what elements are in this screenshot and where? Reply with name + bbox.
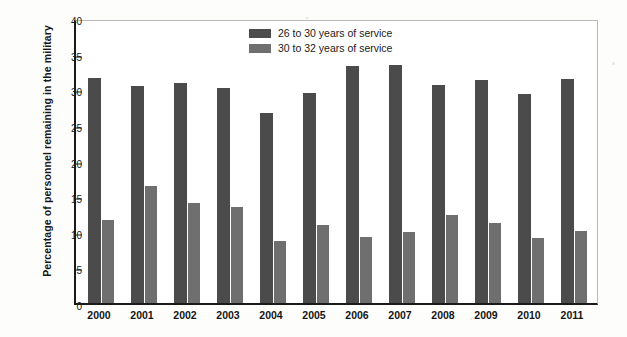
- y-tick-label: 40: [46, 16, 82, 27]
- bar-group: [174, 21, 200, 303]
- scan-speck: [305, 17, 309, 19]
- bar-2002-series-2: [188, 203, 200, 303]
- x-tick-label-2003: 2003: [204, 309, 252, 321]
- legend-item-2: 30 to 32 years of service: [249, 41, 392, 55]
- bar-group: [131, 21, 157, 303]
- bar-2004-series-1: [260, 113, 273, 303]
- y-tick-mark: [76, 92, 82, 93]
- bar-group: [475, 21, 501, 303]
- bar-2006-series-1: [346, 66, 359, 303]
- legend-item-1: 26 to 30 years of service: [249, 26, 392, 40]
- bar-2010-series-2: [532, 238, 544, 303]
- y-tick-mark: [76, 163, 82, 164]
- y-tick-mark: [76, 56, 82, 57]
- bar-2001-series-2: [145, 186, 157, 303]
- x-tick-label-2007: 2007: [376, 309, 424, 321]
- bar-2009-series-2: [489, 223, 501, 304]
- y-tick-mark: [76, 234, 82, 235]
- bar-2010-series-1: [518, 94, 531, 303]
- bar-2003-series-1: [217, 88, 230, 303]
- x-tick-label-2006: 2006: [333, 309, 381, 321]
- bar-2002-series-1: [174, 83, 187, 303]
- bar-group: [518, 21, 544, 303]
- chart-legend: 26 to 30 years of service30 to 32 years …: [249, 26, 392, 56]
- plot-area: 4035302520151050: [74, 20, 598, 305]
- bar-group: [432, 21, 458, 303]
- bar-2009-series-1: [475, 80, 488, 303]
- bar-2007-series-1: [389, 65, 402, 303]
- bar-2006-series-2: [360, 237, 372, 303]
- bar-group: [260, 21, 286, 303]
- bar-group: [88, 21, 114, 303]
- x-tick-label-2010: 2010: [505, 309, 553, 321]
- bar-2001-series-1: [131, 86, 144, 303]
- x-tick-label-2001: 2001: [118, 309, 166, 321]
- x-tick-label-2000: 2000: [75, 309, 123, 321]
- bar-2000-series-2: [102, 220, 114, 303]
- bar-group: [346, 21, 372, 303]
- y-tick-mark: [76, 270, 82, 271]
- bar-group: [561, 21, 587, 303]
- x-tick-label-2002: 2002: [161, 309, 209, 321]
- x-tick-label-2004: 2004: [247, 309, 295, 321]
- legend-label: 30 to 32 years of service: [278, 42, 392, 54]
- legend-label: 26 to 30 years of service: [278, 27, 392, 39]
- bar-group: [217, 21, 243, 303]
- bar-2004-series-2: [274, 241, 286, 303]
- bar-2000-series-1: [88, 78, 101, 303]
- bar-group: [303, 21, 329, 303]
- bar-2008-series-1: [432, 85, 445, 303]
- bar-2011-series-1: [561, 79, 574, 303]
- scan-speck: [470, 318, 473, 320]
- bar-2005-series-2: [317, 225, 329, 303]
- legend-swatch-icon: [249, 44, 271, 53]
- x-tick-label-2008: 2008: [419, 309, 467, 321]
- y-tick-mark: [76, 199, 82, 200]
- legend-swatch-icon: [249, 29, 271, 38]
- scan-speck: [612, 62, 615, 65]
- x-tick-label-2005: 2005: [290, 309, 338, 321]
- bar-2007-series-2: [403, 232, 415, 303]
- bar-2005-series-1: [303, 93, 316, 303]
- bar-2003-series-2: [231, 207, 243, 303]
- bar-group: [389, 21, 415, 303]
- x-tick-label-2011: 2011: [548, 309, 596, 321]
- bar-2011-series-2: [575, 231, 587, 303]
- bar-2008-series-2: [446, 215, 458, 303]
- y-tick-mark: [76, 127, 82, 128]
